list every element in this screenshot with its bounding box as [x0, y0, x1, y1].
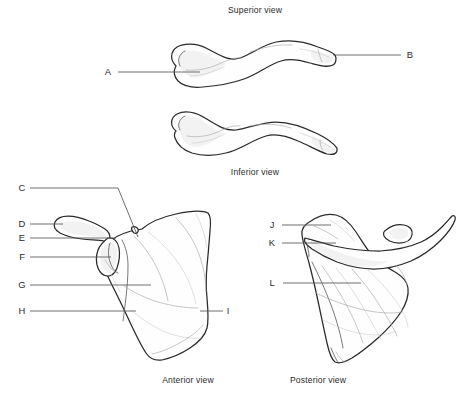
label-j-letter: J [270, 219, 275, 230]
label-g-letter: G [18, 279, 25, 290]
anterior-scapula-illustration [54, 211, 210, 360]
label-d-letter: D [19, 218, 26, 229]
label-c-letter: C [19, 182, 26, 193]
posterior-scapula-illustration [302, 214, 455, 362]
anatomy-figure: Superior view A B [0, 0, 462, 397]
label-h-letter: H [19, 305, 26, 316]
label-h-group: H [19, 305, 136, 316]
figure-canvas: Superior view A B [0, 0, 462, 397]
label-f-letter: F [19, 251, 25, 262]
inferior-clavicle-illustration [172, 112, 337, 155]
superior-clavicle-illustration [172, 41, 336, 87]
caption-inferior-view: Inferior view [231, 167, 280, 177]
label-k-letter: K [269, 237, 276, 248]
scapula-anterior-body-outline [103, 211, 211, 360]
caption-anterior-view: Anterior view [162, 375, 214, 385]
caption-superior-view: Superior view [228, 5, 283, 15]
label-e-letter: E [19, 232, 25, 243]
label-l-letter: L [269, 277, 274, 288]
label-b-letter: B [407, 49, 413, 60]
label-i-letter: I [227, 305, 230, 316]
label-b-group: B [333, 49, 413, 60]
label-a-letter: A [105, 66, 112, 77]
caption-posterior-view: Posterior view [290, 375, 347, 385]
